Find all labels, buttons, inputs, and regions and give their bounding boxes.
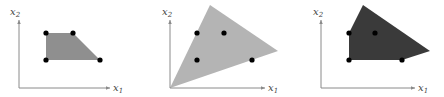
integer-point: [249, 57, 254, 62]
feasible-region: [46, 33, 100, 60]
integer-point: [194, 30, 199, 35]
integer-point: [399, 57, 404, 62]
feasible-region: [349, 5, 430, 60]
panel-lp-relaxation: x1x2: [313, 5, 430, 95]
panel-integer-hull: x1x2: [10, 6, 123, 95]
polyhedra-diagram: x1x2 x1x2 x1x2: [0, 0, 444, 97]
integer-point: [97, 57, 102, 62]
feasible-region: [170, 5, 278, 88]
x2-axis-label: x2: [313, 6, 324, 19]
integer-point: [372, 30, 377, 35]
x2-axis-label: x2: [162, 6, 173, 19]
panel-cone-relaxation: x1x2: [162, 5, 278, 95]
x1-axis-label: x1: [268, 82, 278, 95]
integer-point: [221, 30, 226, 35]
integer-point: [43, 30, 48, 35]
integer-point: [194, 57, 199, 62]
x2-axis-label: x2: [10, 6, 21, 19]
x1-axis-label: x1: [113, 82, 123, 95]
integer-point: [346, 57, 351, 62]
integer-point: [70, 30, 75, 35]
x1-axis-label: x1: [418, 82, 428, 95]
integer-point: [43, 57, 48, 62]
integer-point: [346, 30, 351, 35]
